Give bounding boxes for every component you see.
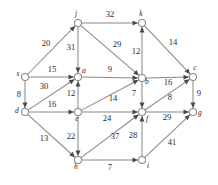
node-i[interactable] — [139, 157, 146, 164]
arrowhead-c-g — [191, 103, 196, 108]
arrowhead-b-f — [140, 103, 145, 108]
graph-diagram: 2015832312914129167930161312142422829377… — [0, 0, 218, 185]
edge-weight-b-k: 12 — [132, 46, 141, 56]
edge-weight-j-a: 31 — [67, 42, 76, 52]
node-s[interactable] — [22, 74, 29, 81]
arrowhead-e-a — [76, 81, 81, 86]
edge-weight-j-k: 32 — [106, 9, 115, 19]
node-label-j: j — [74, 9, 77, 18]
edge-weight-s-a: 15 — [48, 64, 57, 74]
arrowhead-j-k — [133, 21, 138, 26]
edge-weight-j-b: 29 — [113, 39, 122, 49]
node-label-c: c — [193, 63, 197, 72]
edge-a-b — [81, 77, 137, 78]
edge-weight-i-f: 28 — [129, 130, 138, 140]
arrowhead-h-i — [133, 158, 138, 163]
edge-weight-e-b: 14 — [109, 93, 118, 103]
arrowhead-e-f — [133, 110, 138, 115]
node-label-g: g — [198, 108, 202, 117]
node-label-k: k — [139, 9, 143, 18]
node-j[interactable] — [75, 20, 82, 27]
edge-weight-h-f: 37 — [111, 131, 120, 141]
arrowhead-j-a — [76, 68, 81, 73]
node-label-h: h — [74, 162, 78, 171]
edge-weight-f-c: 8 — [168, 92, 172, 102]
node-k[interactable] — [139, 20, 146, 27]
edge-weight-e-f: 24 — [103, 113, 112, 123]
edge-weight-b-c: 16 — [164, 77, 173, 87]
node-c[interactable] — [190, 74, 197, 81]
node-f[interactable] — [139, 109, 146, 116]
arrowhead-s-d — [23, 103, 28, 108]
edge-weight-c-g: 9 — [197, 88, 201, 98]
node-label-s: s — [17, 69, 20, 78]
graph-canvas: 2015832312914129167930161312142422829377… — [0, 0, 218, 185]
arrowhead-b-c — [183, 75, 188, 80]
node-a[interactable] — [75, 74, 82, 81]
edge-weight-h-i: 7 — [108, 162, 113, 172]
edge-weight-s-d: 8 — [17, 89, 21, 99]
arrowhead-d-a — [69, 79, 75, 84]
edge-weight-e-a: 12 — [67, 88, 76, 98]
edge-weight-d-e: 16 — [48, 99, 57, 109]
edge-weight-s-j: 20 — [42, 38, 51, 48]
node-label-b: b — [145, 77, 149, 86]
edge-weight-k-c: 14 — [169, 37, 178, 47]
edge-weight-d-h: 13 — [40, 133, 49, 143]
edge-weight-f-g: 29 — [163, 112, 172, 122]
edge-weight-a-b: 9 — [108, 64, 112, 74]
edge-weight-i-g: 41 — [168, 137, 177, 147]
arrowhead-f-g — [184, 110, 189, 115]
arrowhead-b-k — [140, 27, 145, 32]
node-label-f: f — [146, 114, 149, 123]
arrowhead-i-f — [140, 116, 145, 121]
arrowhead-h-f — [133, 114, 139, 119]
arrowhead-e-h — [76, 151, 81, 156]
arrowhead-d-e — [69, 110, 74, 115]
arrowhead-a-b — [132, 75, 137, 80]
edge-weight-b-f: 7 — [132, 88, 137, 98]
node-label-a: a — [82, 66, 86, 75]
node-label-d: d — [15, 106, 19, 115]
edge-weight-e-h: 22 — [67, 131, 76, 141]
edge-weight-d-a: 30 — [40, 81, 49, 91]
node-g[interactable] — [190, 109, 197, 116]
node-label-i: i — [147, 161, 149, 170]
node-d[interactable] — [22, 109, 29, 116]
edge-k-c — [144, 26, 190, 74]
arrowhead-s-a — [69, 75, 74, 80]
arrowhead-f-c — [184, 79, 190, 84]
